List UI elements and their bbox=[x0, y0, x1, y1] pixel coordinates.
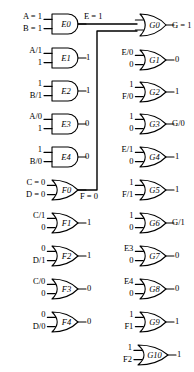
gate-label-e2: E2 bbox=[54, 87, 78, 96]
output-label-e3: 0 bbox=[85, 119, 89, 128]
output-label-g2: 1 bbox=[175, 87, 179, 96]
gate-label-g4: G4 bbox=[145, 153, 164, 162]
input-label-g4-1: E/1 bbox=[107, 145, 133, 154]
gate-label-f3: F3 bbox=[57, 285, 76, 294]
gate-label-f1: F1 bbox=[57, 219, 76, 228]
input-label-g9-2: F1 bbox=[108, 322, 133, 331]
input-label-g10-2: F2 bbox=[108, 355, 132, 364]
input-label-g1-1: E/0 bbox=[107, 48, 133, 57]
gate-label-e1: E1 bbox=[54, 54, 78, 63]
gate-label-f2: F2 bbox=[57, 252, 76, 261]
input-label-g2-1: 1 bbox=[124, 80, 133, 89]
gate-label-f4: F4 bbox=[57, 318, 76, 327]
input-label-e2-1: 1 bbox=[36, 79, 42, 88]
gate-label-e0: E0 bbox=[54, 20, 78, 29]
output-label-f2: 1 bbox=[87, 251, 91, 260]
input-label-e1-2: 1 bbox=[36, 58, 42, 67]
gate-label-g6: G6 bbox=[145, 219, 164, 228]
output-label-g0: G = 1 bbox=[172, 21, 191, 30]
input-label-g3-2: 0 bbox=[124, 124, 133, 133]
input-label-g5-2: F/1 bbox=[107, 190, 133, 199]
output-label-g7: 0 bbox=[175, 251, 179, 260]
input-label-g10-1: 1 bbox=[124, 343, 132, 352]
input-label-g2-2: F/0 bbox=[107, 92, 133, 101]
gate-label-g9: G9 bbox=[145, 318, 164, 327]
input-label-e0-2: B = 1 bbox=[4, 24, 42, 33]
output-label-e0: E = 1 bbox=[84, 12, 103, 21]
gate-label-g8: G8 bbox=[145, 285, 164, 294]
input-label-f0-1: C = 0 bbox=[4, 178, 45, 187]
gate-label-g5: G5 bbox=[145, 186, 164, 195]
output-label-g1: 0 bbox=[175, 55, 179, 64]
input-label-g3-1: 1 bbox=[124, 112, 133, 121]
gate-label-g3: G3 bbox=[145, 120, 164, 129]
output-label-f4: 0 bbox=[87, 317, 91, 326]
input-label-e0-1: A = 1 bbox=[4, 12, 42, 21]
input-label-f4-1: 0 bbox=[36, 310, 45, 319]
input-label-g1-2: 0 bbox=[124, 60, 133, 69]
input-label-f0-2: D = 0 bbox=[4, 190, 45, 199]
input-label-g7-1: E3 bbox=[108, 244, 133, 253]
input-label-g6-2: 0 bbox=[124, 223, 133, 232]
gate-label-g1: G1 bbox=[145, 56, 164, 65]
gate-label-e3: E3 bbox=[54, 120, 78, 129]
gate-label-g7: G7 bbox=[145, 252, 164, 261]
input-label-e4-2: B/0 bbox=[20, 157, 42, 166]
output-label-f3: 0 bbox=[87, 284, 91, 293]
output-label-g3: G/0 bbox=[172, 119, 185, 128]
input-label-g4-2: 0 bbox=[124, 157, 133, 166]
output-label-g9: 1 bbox=[175, 317, 179, 326]
gate-label-g0: G0 bbox=[145, 21, 164, 30]
gate-label-e4: E4 bbox=[54, 153, 78, 162]
input-label-e3-2: 1 bbox=[36, 124, 42, 133]
output-label-e1: 1 bbox=[86, 53, 90, 62]
input-label-f1-2: 0 bbox=[36, 223, 45, 232]
output-label-e2: 1 bbox=[86, 86, 90, 95]
input-label-g8-2: 0 bbox=[124, 289, 133, 298]
output-label-g10: 1 bbox=[177, 350, 181, 359]
input-label-g7-2: 0 bbox=[124, 256, 133, 265]
gate-label-g2: G2 bbox=[145, 88, 164, 97]
input-label-f1-1: C/1 bbox=[20, 211, 45, 220]
input-label-f4-2: D/0 bbox=[20, 322, 45, 331]
output-label-g8: 0 bbox=[175, 284, 179, 293]
input-label-f3-1: C/0 bbox=[20, 277, 45, 286]
input-label-e4-1: 1 bbox=[36, 145, 42, 154]
output-label-e4: 0 bbox=[85, 152, 89, 161]
input-label-f2-2: D/1 bbox=[20, 256, 45, 265]
input-label-e3-1: A/0 bbox=[20, 112, 42, 121]
input-label-g9-1: 1 bbox=[124, 310, 133, 319]
output-label-g6: G/1 bbox=[172, 218, 185, 227]
input-label-f3-2: 0 bbox=[36, 289, 45, 298]
output-label-g4: 1 bbox=[175, 152, 179, 161]
output-label-f0: F = 0 bbox=[80, 192, 98, 201]
output-label-f1: 1 bbox=[87, 218, 91, 227]
input-label-g6-1: 1 bbox=[124, 211, 133, 220]
input-label-g8-1: E4 bbox=[108, 277, 133, 286]
input-label-e1-1: A/1 bbox=[20, 46, 42, 55]
input-label-g5-1: 1 bbox=[124, 178, 133, 187]
gate-label-f0: F0 bbox=[57, 186, 76, 195]
gate-label-g10: G10 bbox=[143, 351, 166, 360]
input-label-f2-1: 0 bbox=[36, 244, 45, 253]
input-label-e2-2: B/1 bbox=[20, 91, 42, 100]
output-label-g5: 1 bbox=[175, 185, 179, 194]
circuit-diagram: E0A = 1B = 1E = 1E1A/111E21B/11E3A/010E4… bbox=[0, 0, 194, 372]
